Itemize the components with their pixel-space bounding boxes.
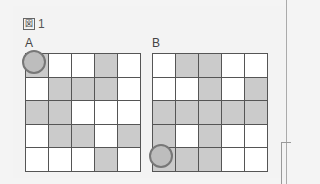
- grid-cell: [118, 148, 140, 171]
- grid-cell: [153, 148, 175, 171]
- grid-cell: [118, 125, 140, 148]
- margin-bracket: [281, 142, 291, 184]
- grid-cell: [176, 125, 198, 148]
- figure-number: 1: [38, 17, 45, 31]
- grid-cell: [176, 78, 198, 101]
- grid-cell: [245, 148, 267, 171]
- grid-cell: [176, 54, 198, 77]
- grid-cell: [26, 101, 48, 124]
- grid-cell: [245, 125, 267, 148]
- grid-cell: [72, 148, 94, 171]
- grid-cell: [176, 101, 198, 124]
- grid-cell: [49, 54, 71, 77]
- grid-cell: [199, 148, 221, 171]
- grid-cell: [49, 148, 71, 171]
- grid-cell: [72, 54, 94, 77]
- figure-mark-icon: 図: [23, 18, 35, 30]
- grid-b-label: B: [152, 36, 160, 50]
- grid-cell: [49, 125, 71, 148]
- grid-a-label: A: [25, 36, 33, 50]
- grid-cell: [176, 148, 198, 171]
- grid-cell: [222, 54, 244, 77]
- grid-cell: [49, 101, 71, 124]
- grid-cell: [153, 78, 175, 101]
- grid-cell: [118, 101, 140, 124]
- grid-cell: [199, 101, 221, 124]
- grid-cell: [245, 101, 267, 124]
- grid-cell: [222, 78, 244, 101]
- grid-cell: [95, 78, 117, 101]
- grid-cell: [118, 78, 140, 101]
- grid-cell: [245, 54, 267, 77]
- grid-cell: [95, 54, 117, 77]
- grid-cell: [118, 54, 140, 77]
- grid-cell: [222, 148, 244, 171]
- grid-cell: [26, 54, 48, 77]
- grid-cell: [245, 78, 267, 101]
- grid-cell: [153, 54, 175, 77]
- circle-marker-icon: [22, 50, 46, 74]
- grid-cell: [72, 78, 94, 101]
- grid-cell: [153, 101, 175, 124]
- grid-cell: [26, 78, 48, 101]
- figure-title: 図 1: [23, 17, 45, 31]
- grid-cell: [26, 148, 48, 171]
- grid-cell: [26, 125, 48, 148]
- grid-cell: [199, 54, 221, 77]
- grid-cell: [95, 148, 117, 171]
- grid-cell: [199, 125, 221, 148]
- grid-cell: [95, 125, 117, 148]
- grid-b: [152, 53, 268, 172]
- grid-cell: [199, 78, 221, 101]
- grid-cell: [95, 101, 117, 124]
- grid-a: [25, 53, 141, 172]
- grid-cell: [49, 78, 71, 101]
- grid-cell: [72, 101, 94, 124]
- grid-cell: [222, 125, 244, 148]
- circle-marker-icon: [149, 144, 173, 168]
- grid-cell: [72, 125, 94, 148]
- grid-cell: [222, 101, 244, 124]
